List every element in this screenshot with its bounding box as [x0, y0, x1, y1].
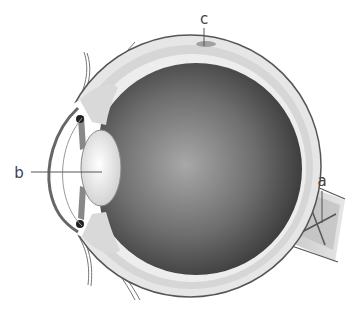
label-a-text: a: [317, 172, 326, 190]
vitreous-body: [90, 63, 302, 275]
fovea-spot: [196, 41, 216, 47]
eye-cross-section-diagram: c b a: [0, 0, 358, 310]
iris-root-upper: [76, 115, 84, 123]
label-b-text: b: [14, 164, 24, 182]
lens: [81, 130, 121, 206]
label-c-text: c: [200, 10, 208, 28]
